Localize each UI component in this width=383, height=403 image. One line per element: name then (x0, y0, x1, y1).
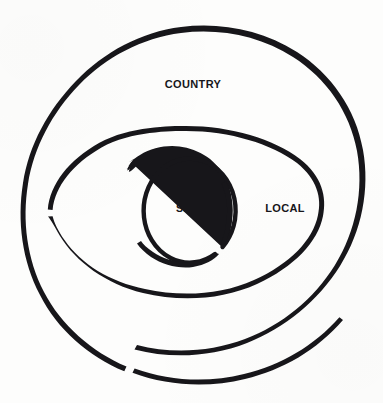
ring-label-country: COUNTRY (165, 78, 221, 90)
ring-label-self: SELF (176, 202, 204, 214)
diagram-canvas: COUNTRY SELF LOCAL (0, 0, 383, 403)
ring-label-local: LOCAL (265, 202, 305, 214)
ring-self-tail (137, 241, 219, 268)
